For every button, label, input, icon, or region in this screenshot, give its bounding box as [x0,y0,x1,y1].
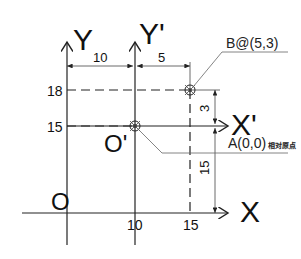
tick-x-10: 10 [127,217,143,233]
dim-5: 5 [158,50,165,65]
dimension-vertical: 3 15 [190,90,220,213]
y-axis-label: Y [73,23,93,56]
dim-15: 15 [197,161,212,175]
dimension-horizontal: 10 5 [67,50,190,90]
tick-x-15: 15 [183,217,199,233]
coordinate-diagram: Y Y' X X' 18 15 10 15 10 5 3 15 [0,0,301,259]
leader-b [193,52,288,87]
dim-10: 10 [93,50,107,65]
point-b-label: B@(5,3) [226,35,278,51]
y-axis: Y [67,23,93,245]
origin-prime-label: O' [104,130,127,157]
tick-y-15: 15 [47,119,63,135]
y-prime-axis-label: Y' [139,17,165,50]
tick-y-18: 18 [47,83,63,99]
dim-3: 3 [197,105,212,112]
point-a-label: A(0,0)相对原点 [228,135,296,151]
origin-label: O [51,188,70,215]
x-axis-label: X [240,195,260,228]
